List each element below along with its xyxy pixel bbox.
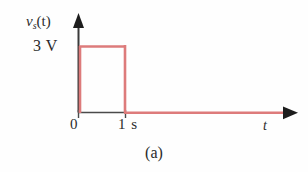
x-axis-label: t xyxy=(263,119,267,133)
figure-container: vs(t) 3 V 0 1 s t (a) xyxy=(0,0,308,172)
figure-caption: (a) xyxy=(0,145,308,161)
y-tick-label-amplitude: 3 V xyxy=(33,38,58,54)
y-axis-label-argument: (t) xyxy=(37,13,51,29)
y-axis-label-var: v xyxy=(26,13,33,29)
y-axis-arrowhead xyxy=(73,13,84,28)
y-axis-label: vs(t) xyxy=(26,14,51,31)
x-axis-arrowhead xyxy=(283,107,298,120)
x-tick-label-one-second: 1 s xyxy=(118,117,138,132)
x-tick-label-origin: 0 xyxy=(70,117,78,132)
